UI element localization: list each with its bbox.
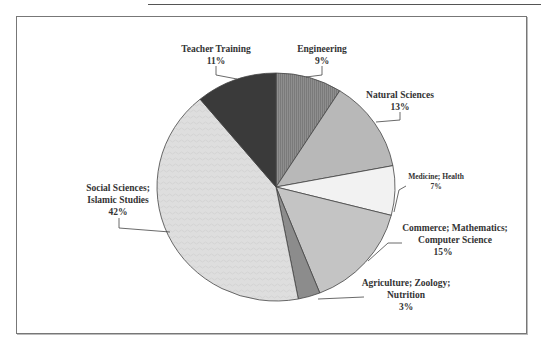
label-medicine-name: Medicine; Health	[408, 172, 464, 181]
pie-slices	[157, 73, 395, 301]
label-natural-sciences-name: Natural Sciences	[366, 90, 434, 100]
label-commerce-pct: 15%	[434, 247, 453, 257]
label-natural-sciences: Natural Sciences 13%	[366, 90, 434, 112]
label-commerce-line2: Computer Science	[418, 235, 492, 245]
label-agriculture-pct: 3%	[399, 302, 413, 312]
label-teacher-training: Teacher Training 11%	[181, 44, 251, 66]
label-engineering-pct: 9%	[315, 56, 329, 66]
label-medicine-pct: 7%	[430, 182, 441, 191]
label-commerce: Commerce; Mathematics; Computer Science …	[402, 223, 508, 257]
label-social-line1: Social Sciences;	[86, 183, 150, 193]
label-social-line2: Islamic Studies	[87, 195, 149, 205]
label-natural-sciences-pct: 13%	[391, 102, 410, 112]
label-social-sciences: Social Sciences; Islamic Studies 42%	[86, 183, 150, 217]
label-teacher-training-pct: 11%	[207, 56, 225, 66]
label-engineering-name: Engineering	[297, 44, 347, 54]
label-teacher-training-name: Teacher Training	[181, 44, 251, 54]
label-agriculture-line2: Nutrition	[387, 290, 426, 300]
label-engineering: Engineering 9%	[297, 44, 347, 66]
label-commerce-line1: Commerce; Mathematics;	[402, 223, 508, 233]
pie-chart: Teacher Training 11% Engineering 9% Natu…	[0, 0, 541, 347]
label-social-pct: 42%	[109, 207, 128, 217]
label-medicine: Medicine; Health 7%	[408, 172, 464, 191]
label-agriculture: Agriculture; Zoology; Nutrition 3%	[362, 278, 451, 312]
label-agriculture-line1: Agriculture; Zoology;	[362, 278, 451, 288]
